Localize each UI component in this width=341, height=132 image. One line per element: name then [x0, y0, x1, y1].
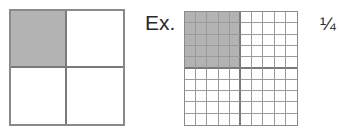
grid-cell — [252, 23, 263, 34]
grid-cell — [263, 102, 274, 113]
grid-cell — [185, 91, 196, 102]
grid-cell — [207, 102, 218, 113]
grid-cell — [241, 57, 252, 68]
grid-cell-shaded — [219, 23, 230, 34]
grid-cell-shaded — [219, 46, 230, 57]
grid-cell — [275, 102, 286, 113]
grid-cell — [252, 114, 263, 125]
grid-cell — [185, 102, 196, 113]
grid-cell — [252, 12, 263, 23]
grid-cell — [196, 69, 207, 80]
grid-cell-shaded — [185, 12, 196, 23]
quadrant-top-right — [67, 11, 123, 68]
grid-cell-shaded — [207, 12, 218, 23]
grid-cell — [196, 91, 207, 102]
grid-cell — [286, 23, 297, 34]
grid-cell — [196, 102, 207, 113]
fraction-label: ¼ — [320, 14, 336, 33]
grid-cell — [219, 91, 230, 102]
grid-cell — [263, 35, 274, 46]
grid-cell-shaded — [207, 35, 218, 46]
grid-cell — [219, 80, 230, 91]
grid-cell — [275, 46, 286, 57]
grid-cell — [252, 102, 263, 113]
grid-cell — [275, 57, 286, 68]
grid-cell-shaded — [219, 57, 230, 68]
grid-cell-shaded — [219, 12, 230, 23]
quadrant-bottom-right — [67, 68, 123, 125]
grid-cell-shaded — [219, 35, 230, 46]
grid-cell — [185, 69, 196, 80]
grid-cell — [230, 69, 241, 80]
grid-cell-shaded — [196, 12, 207, 23]
grid-cell — [241, 114, 252, 125]
grid-cell-shaded — [230, 12, 241, 23]
grid-cell — [286, 114, 297, 125]
grid-cell — [207, 69, 218, 80]
grid-cell — [263, 114, 274, 125]
quadrant-bottom-left — [11, 68, 67, 125]
grid-cell — [230, 114, 241, 125]
grid-cell-shaded — [185, 23, 196, 34]
grid-cell-shaded — [196, 46, 207, 57]
grid-cell — [207, 114, 218, 125]
example-label: Ex. — [145, 12, 175, 33]
grid-cell — [286, 69, 297, 80]
grid-cell-shaded — [230, 23, 241, 34]
grid-cell — [252, 69, 263, 80]
grid-cell — [219, 102, 230, 113]
grid-cell-shaded — [196, 35, 207, 46]
grid-cell — [263, 46, 274, 57]
grid-cell-shaded — [196, 57, 207, 68]
hundred-grid-diagram — [184, 11, 298, 126]
grid-cell — [207, 91, 218, 102]
grid-cell — [185, 114, 196, 125]
quadrant-top-left-shaded — [11, 11, 67, 68]
grid-cell-shaded — [230, 46, 241, 57]
grid-cell-shaded — [185, 57, 196, 68]
grid-cell — [207, 80, 218, 91]
grid-cell-shaded — [196, 23, 207, 34]
grid-cell — [230, 80, 241, 91]
grid-cell — [286, 102, 297, 113]
grid-cell — [275, 35, 286, 46]
grid-cell — [263, 69, 274, 80]
grid-cell — [286, 80, 297, 91]
grid-cell-shaded — [230, 57, 241, 68]
grid-cell — [286, 57, 297, 68]
grid-cell — [196, 114, 207, 125]
grid-cell — [241, 46, 252, 57]
grid-cell-shaded — [207, 46, 218, 57]
grid-cell — [275, 69, 286, 80]
grid-cell — [263, 23, 274, 34]
grid-cell — [241, 91, 252, 102]
grid-cell — [263, 12, 274, 23]
grid-cell-shaded — [230, 35, 241, 46]
quarter-square-diagram — [9, 9, 125, 126]
grid-cell — [275, 80, 286, 91]
grid-cell — [275, 23, 286, 34]
grid-cell-shaded — [207, 57, 218, 68]
grid-cell — [286, 12, 297, 23]
grid-cell — [241, 12, 252, 23]
grid-cell — [275, 91, 286, 102]
grid-cell — [286, 35, 297, 46]
grid-cell — [241, 102, 252, 113]
grid-cell — [286, 91, 297, 102]
grid-cell — [196, 80, 207, 91]
grid-cell — [252, 35, 263, 46]
grid-cell — [263, 91, 274, 102]
grid-cell — [230, 91, 241, 102]
grid-cell — [241, 35, 252, 46]
grid-cell — [241, 23, 252, 34]
grid-cell — [252, 91, 263, 102]
grid-cell — [252, 57, 263, 68]
grid-cell-shaded — [207, 23, 218, 34]
grid-cell — [252, 80, 263, 91]
grid-cell — [275, 12, 286, 23]
grid-cell — [219, 69, 230, 80]
grid-cell — [263, 80, 274, 91]
grid-cell — [241, 69, 252, 80]
grid-cell — [185, 80, 196, 91]
grid-cell-shaded — [185, 46, 196, 57]
